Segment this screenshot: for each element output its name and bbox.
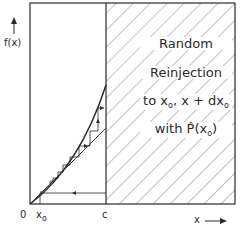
x-axis-label: x	[194, 215, 200, 225]
region-text-line4: with P̂(xo)	[140, 122, 232, 138]
x0-subscript: o	[42, 214, 47, 223]
origin-label: 0	[20, 210, 26, 220]
line3-mid: , x + dx	[173, 93, 224, 108]
line3-prefix: to x	[143, 93, 168, 108]
y-axis-label: f(x)	[4, 38, 21, 48]
c-label: c	[102, 210, 108, 220]
x0-label: xo	[36, 210, 47, 223]
arrow-right-icon	[220, 218, 227, 224]
region-text-line3: to xo, x + dxo	[140, 94, 232, 110]
map-curve	[30, 85, 106, 204]
region-text-line1: Random	[140, 37, 232, 50]
line4-prefix: with P̂(x	[155, 121, 207, 136]
arrow-up-icon	[11, 17, 17, 24]
cobweb-staircase	[41, 108, 104, 193]
arrowhead-left-icon	[72, 191, 76, 195]
line3-sub2: o	[224, 101, 229, 110]
arrowhead-icon	[100, 106, 104, 110]
line4-suffix: )	[212, 121, 217, 136]
region-text-line2: Reinjection	[140, 66, 232, 79]
arrowhead-icon	[96, 119, 100, 123]
